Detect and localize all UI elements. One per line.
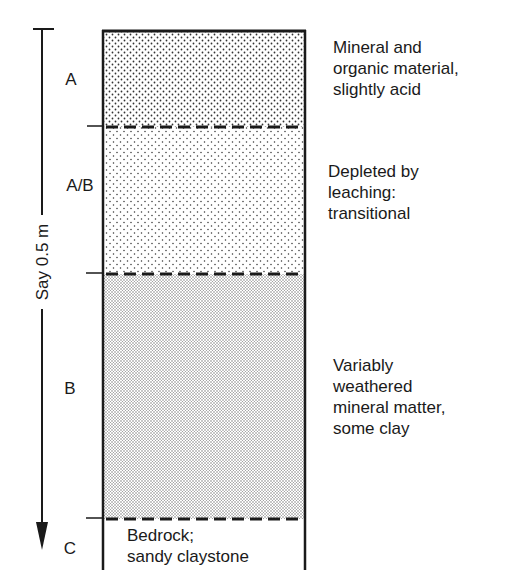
horizon-description-c: Bedrock; sandy claystone	[127, 525, 249, 567]
horizon-label-a: A	[46, 70, 96, 90]
horizon-ab-fill	[104, 127, 304, 274]
horizon-description-b: Variably weathered mineral matter, some …	[333, 355, 445, 439]
horizon-description-a: Mineral and organic material, slightly a…	[333, 37, 459, 100]
horizon-label-c: C	[45, 539, 95, 559]
horizon-description-ab: Depleted by leaching: transitional	[328, 161, 419, 224]
horizon-a-fill	[104, 32, 304, 127]
horizon-b-fill	[104, 274, 304, 519]
scale-label: Say 0.5 m	[33, 215, 53, 309]
horizon-label-b: B	[45, 379, 95, 399]
horizon-label-ab: A/B	[55, 176, 105, 196]
